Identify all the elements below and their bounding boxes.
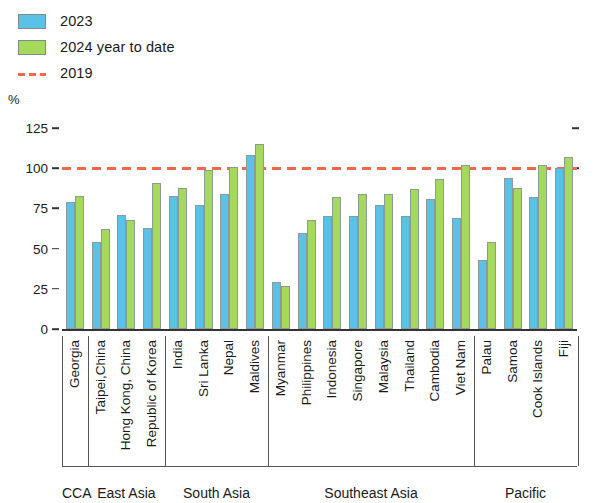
region-divider <box>165 336 269 466</box>
y-tick-mark-25 <box>52 288 59 290</box>
bar-2024 <box>410 189 419 329</box>
bar-2023 <box>478 260 487 329</box>
region-groups: CCAEast AsiaSouth AsiaSoutheast AsiaPaci… <box>62 336 577 503</box>
bar-2024 <box>75 196 84 329</box>
bar-2023 <box>504 178 513 329</box>
bar-2024 <box>178 188 187 330</box>
y-tick-mark-0 <box>52 328 59 330</box>
bar-2023 <box>66 202 75 329</box>
legend-item-2024: 2024 year to date <box>18 36 175 58</box>
y-tick-label-25: 25 <box>14 281 48 296</box>
legend-swatch-2024 <box>18 40 46 55</box>
bar-2023 <box>117 215 126 329</box>
region-label-east-asia: East Asia <box>88 485 165 501</box>
bar-2023 <box>529 197 538 329</box>
legend-label-2023: 2023 <box>60 13 93 29</box>
legend-item-2023: 2023 <box>18 10 175 32</box>
legend-item-2019: 2019 <box>18 62 175 84</box>
region-label-cca: CCA <box>62 485 88 501</box>
bar-2023 <box>401 216 410 329</box>
region-label-pacific: Pacific <box>474 485 577 501</box>
y-tick-label-75: 75 <box>14 201 48 216</box>
bar-2024 <box>461 165 470 329</box>
y-tick-mark-50 <box>52 248 59 250</box>
region-bottom-rule <box>62 466 577 467</box>
bar-2023 <box>426 199 435 329</box>
bar-2024 <box>332 197 341 329</box>
bar-2023 <box>220 194 229 329</box>
bar-2023 <box>246 155 255 329</box>
bar-2024 <box>513 188 522 330</box>
bar-2024 <box>229 167 238 329</box>
chart-legend: 2023 2024 year to date 2019 <box>18 10 175 88</box>
bar-2024 <box>538 165 547 329</box>
bar-2024 <box>255 144 264 329</box>
bar-2024 <box>384 194 393 329</box>
bar-2023 <box>195 205 204 329</box>
region-divider <box>88 336 166 466</box>
legend-label-2019: 2019 <box>60 65 93 81</box>
bar-2024 <box>307 220 316 329</box>
region-divider <box>62 336 89 466</box>
chart-plot-area: 1251007550250 GeorgiaTaipei,ChinaHong Ko… <box>0 118 595 503</box>
bar-2023 <box>452 218 461 329</box>
bar-2024 <box>281 286 290 329</box>
bar-2023 <box>169 196 178 329</box>
bar-2024 <box>101 229 110 329</box>
y-tick-mark-100 <box>52 167 59 169</box>
y-tick-mark-75 <box>52 208 59 210</box>
bar-2023 <box>298 233 307 329</box>
y-axis-unit-label: % <box>8 92 20 107</box>
y-tick-label-100: 100 <box>14 161 48 176</box>
region-divider <box>474 336 579 466</box>
bar-2024 <box>564 157 573 329</box>
legend-dashed-line-2019 <box>18 66 46 81</box>
bar-2024 <box>152 183 161 329</box>
bar-2023 <box>555 168 564 329</box>
legend-swatch-2023 <box>18 14 46 29</box>
region-label-southeast-asia: Southeast Asia <box>268 485 474 501</box>
bar-2023 <box>272 282 281 329</box>
y-tick-label-50: 50 <box>14 241 48 256</box>
region-divider <box>268 336 475 466</box>
bar-2024 <box>435 179 444 329</box>
bar-2024 <box>358 194 367 329</box>
bar-2023 <box>375 205 384 329</box>
y-tick-mark-125 <box>52 127 59 129</box>
y-tick-label-125: 125 <box>14 121 48 136</box>
legend-label-2024: 2024 year to date <box>60 39 175 55</box>
bar-2023 <box>323 216 332 329</box>
y-tick-label-0: 0 <box>14 322 48 337</box>
bar-2024 <box>126 220 135 329</box>
bar-2024 <box>487 242 496 329</box>
region-label-south-asia: South Asia <box>165 485 268 501</box>
bar-2023 <box>92 242 101 329</box>
bar-2023 <box>349 216 358 329</box>
bar-2023 <box>143 228 152 329</box>
bar-2024 <box>204 170 213 329</box>
